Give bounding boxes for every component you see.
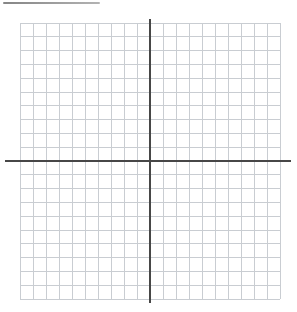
blank-coordinate-plane-canvas (0, 0, 297, 312)
coordinate-grid (0, 0, 297, 312)
